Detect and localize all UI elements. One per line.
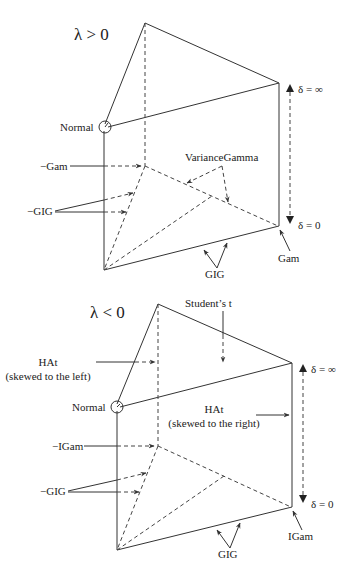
label-gam: Gam (278, 252, 300, 264)
arrow-neg-gig-1 (104, 193, 133, 200)
label-normal: Normal (72, 401, 106, 413)
label-normal: Normal (60, 121, 94, 133)
panel-title: λ < 0 (90, 303, 125, 322)
arrow-igam (293, 511, 302, 530)
arrow-vg-2 (222, 166, 228, 202)
panel-lambda-negative: λ < 0 Student’s t HAt (skewed to the lef… (5, 297, 335, 560)
label-gig: GIG (218, 548, 238, 560)
label-gig: GIG (205, 268, 225, 280)
arrow-gig-2 (230, 523, 240, 548)
arrow-gig-1 (217, 530, 230, 548)
arrow-gig-1 (204, 250, 217, 268)
label-delta-inf: δ = ∞ (311, 363, 336, 375)
diagram-canvas: λ > 0 Normal −Gam −GIG VarianceGa (0, 0, 351, 577)
label-hat-left-line1: HAt (39, 356, 58, 368)
delta-axis: δ = ∞ δ = 0 (286, 83, 323, 231)
panel-lambda-positive: λ > 0 Normal −Gam −GIG VarianceGa (27, 23, 323, 280)
arrow-up-icon (286, 84, 294, 92)
label-hat-left-line2: (skewed to the left) (5, 370, 91, 383)
label-students-t: Student’s t (185, 297, 232, 309)
label-neg-igam: −IGam (52, 440, 84, 452)
label-igam: IGam (288, 530, 313, 542)
label-neg-gig: −GIG (27, 205, 53, 217)
arrow-neg-gig-1 (117, 473, 146, 480)
label-delta-inf: δ = ∞ (298, 83, 323, 95)
arrow-down-icon (286, 216, 294, 224)
label-neg-gam: −Gam (40, 160, 68, 172)
arrow-up-icon (299, 364, 307, 372)
panel-title: λ > 0 (74, 25, 109, 44)
delta-axis: δ = ∞ δ = 0 (299, 363, 336, 510)
label-variance-gamma: VarianceGamma (185, 151, 258, 163)
arrow-gig-2 (217, 243, 227, 268)
arrow-vg-1 (187, 166, 222, 183)
arrow-gam (280, 230, 290, 251)
label-hat-right-line1: HAt (205, 403, 224, 415)
label-neg-gig: −GIG (40, 485, 66, 497)
label-hat-right-line2: (skewed to the right) (168, 417, 260, 430)
arrow-down-icon (299, 495, 307, 503)
prism-solid-edges (104, 23, 279, 270)
label-delta-zero: δ = 0 (311, 498, 334, 510)
label-delta-zero: δ = 0 (298, 219, 321, 231)
